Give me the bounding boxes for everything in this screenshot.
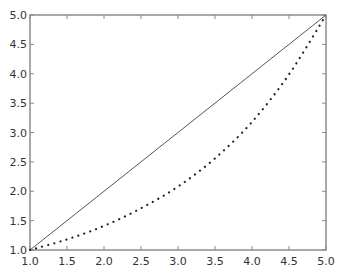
y-tick-label: 2.0	[10, 185, 28, 198]
x-tick-label: 5.0	[317, 255, 335, 268]
y-tick-label: 3.0	[10, 127, 28, 140]
x-tick-label: 3.5	[206, 255, 224, 268]
x-tick-label: 3.0	[169, 255, 187, 268]
x-tick-label: 4.0	[243, 255, 261, 268]
x-tick-label: 2.5	[132, 255, 150, 268]
y-tick-label: 4.5	[10, 38, 28, 51]
x-tick-label: 1.5	[58, 255, 76, 268]
x-axis: 1.01.52.02.53.03.54.04.55.0	[21, 15, 335, 268]
series-group	[30, 15, 326, 250]
series-line-linear	[30, 15, 326, 250]
y-tick-label: 1.0	[10, 244, 28, 257]
y-tick-label: 2.5	[10, 156, 28, 169]
x-tick-label: 2.0	[95, 255, 113, 268]
x-tick-label: 4.5	[280, 255, 298, 268]
y-tick-label: 4.0	[10, 68, 28, 81]
y-tick-label: 5.0	[10, 9, 28, 22]
y-tick-label: 1.5	[10, 215, 28, 228]
line-chart: 1.01.52.02.53.03.54.04.55.0 1.01.52.02.5…	[0, 0, 342, 276]
y-tick-label: 3.5	[10, 97, 28, 110]
y-axis: 1.01.52.02.53.03.54.04.55.0	[10, 9, 327, 257]
